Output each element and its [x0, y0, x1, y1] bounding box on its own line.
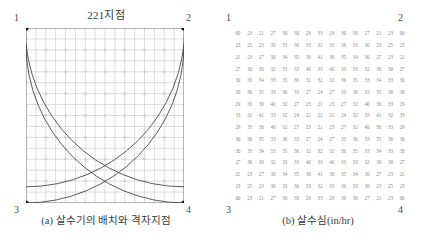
depth-cell: 32: [329, 149, 334, 154]
depth-cell: 30: [259, 102, 264, 107]
depth-cell: 33: [353, 160, 358, 165]
depth-cell: 33: [282, 67, 287, 72]
depth-cell: 23: [388, 31, 393, 36]
sprinkler-grid-plot: [26, 28, 184, 203]
depth-cell: 32: [306, 78, 311, 83]
depth-cell: 36: [294, 78, 299, 83]
depth-cell: 33: [400, 113, 405, 118]
depth-cell: 40: [271, 102, 276, 107]
depth-cell: 32: [271, 160, 276, 165]
depth-cell: 33: [282, 160, 287, 165]
depth-cell: 30: [376, 160, 381, 165]
depth-cell: 30: [271, 43, 276, 48]
depth-cell: 33: [353, 43, 358, 48]
depth-cell: 36: [341, 78, 346, 83]
depth-cell: 33: [388, 149, 393, 154]
depth-cell: 21: [400, 55, 405, 60]
depth-cell: 32: [282, 113, 287, 118]
depth-cell: 33: [318, 196, 323, 201]
depth-cell: 33: [341, 67, 346, 72]
depth-cell: 21: [259, 31, 264, 36]
depth-cell: 40: [329, 67, 334, 72]
depth-cell: 27: [376, 172, 381, 177]
depth-cell: 23: [376, 43, 381, 48]
panel-a-corner-label-1: 1: [14, 12, 19, 23]
depth-cell: 00: [400, 31, 405, 36]
depth-cell: 27: [259, 55, 264, 60]
depth-cell: 21: [318, 102, 323, 107]
panel-a-corner-label-2: 2: [186, 12, 191, 23]
depth-cell: 29: [235, 125, 240, 130]
depth-cell: 33: [282, 43, 287, 48]
depth-cell: 33: [341, 137, 346, 142]
depth-cell: 35: [341, 172, 346, 177]
depth-cell: 35: [282, 78, 287, 83]
depth-cell: 32: [282, 125, 287, 130]
depth-cell: 29: [329, 31, 334, 36]
depth-cell: 30: [364, 172, 369, 177]
depth-cell: 33: [247, 102, 252, 107]
depth-cell: 27: [271, 196, 276, 201]
depth-cell: 23: [235, 184, 240, 189]
depth-cell: 23: [376, 184, 381, 189]
depth-cell: 30: [376, 102, 381, 107]
depth-cell: 29: [235, 102, 240, 107]
depth-cell: 41: [318, 172, 323, 177]
depth-cell: 21: [376, 31, 381, 36]
depth-cell: 36: [294, 43, 299, 48]
depth-cell: 30: [282, 196, 287, 201]
depth-cell: 33: [341, 160, 346, 165]
depth-cell: 30: [353, 196, 358, 201]
depth-cell: 36: [282, 90, 287, 95]
depth-cell: 22: [318, 113, 323, 118]
depth-cell: 27: [400, 67, 405, 72]
depth-cell: 30: [271, 184, 276, 189]
depth-cell: 32: [353, 113, 358, 118]
depth-cell: 27: [235, 67, 240, 72]
depth-cell: 24: [294, 113, 299, 118]
depth-cell: 24: [341, 113, 346, 118]
depth-cell: 34: [376, 78, 381, 83]
depth-cell: 34: [282, 172, 287, 177]
depth-cell: 30: [271, 172, 276, 177]
panel-b-application-depth: 1 2 3 4 00232127303029332930302721230023…: [212, 0, 424, 243]
depth-cell: 41: [318, 55, 323, 60]
depth-cell: 27: [329, 90, 334, 95]
depth-cell: 35: [376, 90, 381, 95]
depth-cell: 40: [364, 102, 369, 107]
depth-cell: 33: [271, 90, 276, 95]
depth-cell: 33: [364, 149, 369, 154]
depth-cell: 27: [294, 125, 299, 130]
depth-cell: 33: [353, 184, 358, 189]
panel-b-corner-label-2: 2: [398, 12, 403, 23]
depth-cell: 27: [294, 102, 299, 107]
depth-cell: 40: [329, 160, 334, 165]
depth-cell: 21: [259, 196, 264, 201]
depth-cell: 35: [282, 149, 287, 154]
depth-cell: 33: [388, 78, 393, 83]
depth-cell: 35: [294, 55, 299, 60]
depth-cell: 30: [388, 160, 393, 165]
depth-cell: 27: [341, 125, 346, 130]
depth-cell: 33: [247, 125, 252, 130]
depth-cell: 21: [400, 172, 405, 177]
depth-cell: 00: [235, 31, 240, 36]
depth-cell: 33: [306, 184, 311, 189]
depth-cell: 30: [259, 125, 264, 130]
panel-a-title: 221지점: [0, 6, 212, 22]
depth-cell: 30: [364, 43, 369, 48]
depth-cell: 00: [235, 196, 240, 201]
depth-cell: 40: [271, 125, 276, 130]
depth-cell: 30: [235, 149, 240, 154]
depth-cell: 30: [259, 160, 264, 165]
depth-cell: 23: [247, 196, 252, 201]
depth-cell: 29: [400, 125, 405, 130]
depth-cell: 34: [259, 78, 264, 83]
depth-cell: 33: [247, 149, 252, 154]
depth-cell: 33: [271, 149, 276, 154]
depth-cell: 30: [235, 137, 240, 142]
depth-cell: 33: [318, 31, 323, 36]
depth-cell: 21: [318, 125, 323, 130]
depth-cell: 32: [388, 113, 393, 118]
depth-cell: 32: [318, 43, 323, 48]
